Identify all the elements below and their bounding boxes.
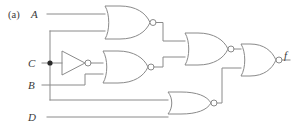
nor-gate-5-bubble	[276, 57, 282, 63]
nor-gate-1-body	[105, 6, 150, 39]
input-label-b: B	[28, 79, 35, 91]
wire-nor4-to-nor5	[217, 68, 241, 103]
figure-container: (a) A C B D f	[0, 0, 291, 132]
nor-gate-5-body	[241, 44, 276, 76]
input-label-a: A	[30, 8, 38, 20]
nor-gate-2-body	[103, 51, 148, 83]
input-label-c: C	[28, 57, 36, 69]
inverter-bubble	[85, 60, 91, 66]
wire-nor2-to-nor3	[154, 57, 185, 67]
output-label-f: f	[284, 49, 289, 61]
logic-circuit-diagram: (a) A C B D f	[0, 0, 291, 132]
wire-nor1-to-nor3	[156, 23, 185, 42]
wire-input-b	[42, 74, 103, 85]
nor-gate-3-bubble	[228, 46, 234, 52]
input-label-d: D	[27, 111, 36, 123]
inverter-body	[62, 51, 85, 75]
junction-dot-c	[47, 60, 52, 65]
nor-gate-4-bubble	[211, 100, 217, 106]
nor-gate-4-body	[168, 92, 211, 114]
nor-gate-3-body	[185, 33, 228, 65]
nor-gate-2-bubble	[148, 64, 154, 70]
nor-gate-1-bubble	[150, 20, 156, 26]
figure-caption-label: (a)	[8, 9, 20, 21]
